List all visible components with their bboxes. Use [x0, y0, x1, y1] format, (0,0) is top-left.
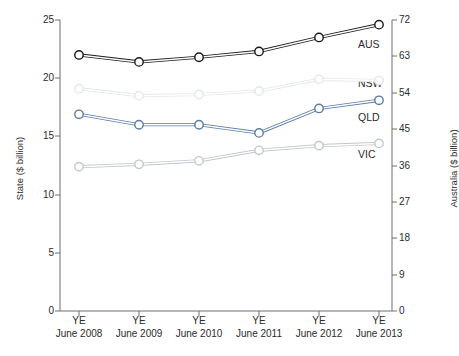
data-point-marker: [75, 110, 83, 118]
data-point-marker: [195, 157, 203, 165]
data-point-marker: [375, 139, 383, 147]
data-point-marker: [375, 20, 383, 28]
x-axis: [60, 311, 392, 316]
data-point-marker: [135, 160, 143, 168]
series-line-inner: [79, 25, 379, 62]
data-point-marker: [255, 87, 263, 95]
series-line-inner: [79, 79, 379, 95]
data-point-marker: [195, 53, 203, 61]
right-axis: [392, 20, 397, 311]
series-layer: [75, 20, 383, 170]
data-point-marker: [75, 51, 83, 59]
data-point-marker: [375, 96, 383, 104]
data-point-marker: [75, 84, 83, 92]
data-point-marker: [135, 91, 143, 99]
data-point-marker: [255, 146, 263, 154]
data-point-marker: [135, 58, 143, 66]
data-point-marker: [195, 90, 203, 98]
data-point-marker: [315, 75, 323, 83]
data-point-marker: [315, 33, 323, 41]
series-line-outer: [79, 100, 379, 133]
data-point-marker: [255, 47, 263, 55]
left-axis: [55, 20, 60, 311]
series-line-outer: [79, 25, 379, 62]
series-qld: [75, 96, 383, 137]
series-nsw: [75, 75, 383, 100]
data-point-marker: [75, 162, 83, 170]
data-point-marker: [315, 142, 323, 150]
series-aus: [75, 20, 383, 66]
data-point-marker: [135, 121, 143, 129]
data-point-marker: [315, 104, 323, 112]
data-point-marker: [255, 129, 263, 137]
data-point-marker: [195, 121, 203, 129]
secondary-y-axis-title: Australia ($ billion): [448, 104, 459, 234]
series-vic: [75, 139, 383, 171]
series-line-inner: [79, 143, 379, 166]
data-point-marker: [375, 76, 383, 84]
